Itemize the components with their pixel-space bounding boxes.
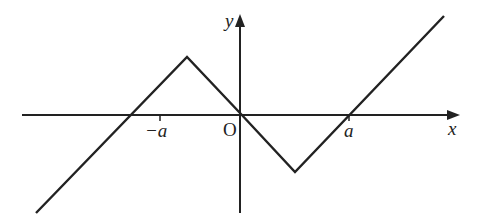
function-graph-diagram: y x O −a a [0, 0, 480, 221]
x-axis-label: x [447, 118, 457, 139]
y-axis-arrow-icon [235, 14, 245, 27]
origin-label: O [223, 119, 237, 140]
neg-a-label: −a [145, 120, 167, 141]
pos-a-label: a [344, 120, 354, 141]
y-axis-label: y [223, 10, 234, 31]
